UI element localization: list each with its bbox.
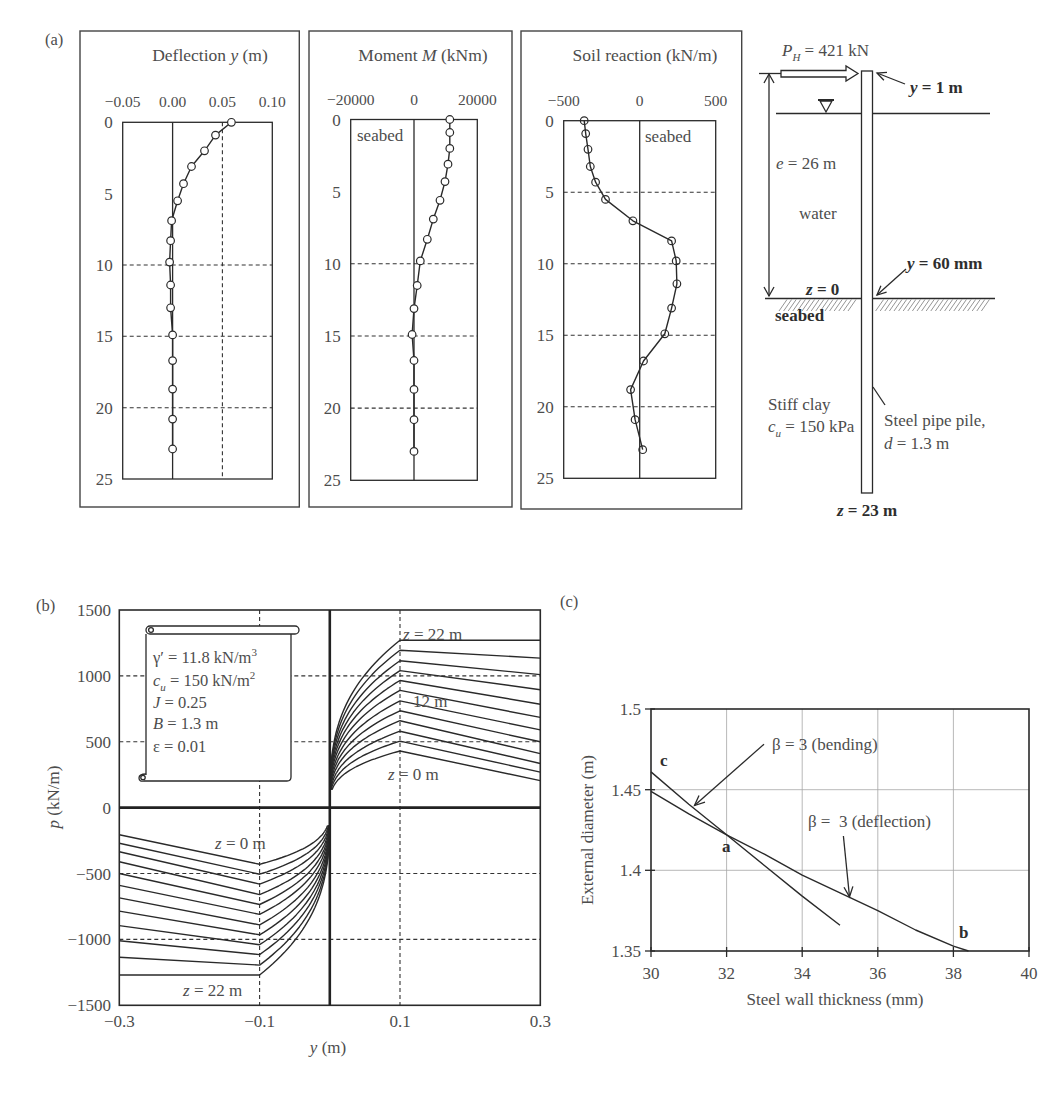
- y-tick-label: 0: [545, 112, 554, 131]
- data-point-marker: [424, 236, 432, 244]
- mudline-deflection-value: = 60 mm: [915, 254, 983, 273]
- y-tick-label: 20: [96, 399, 113, 418]
- py-y-axis-label: p (kN/m): [44, 766, 63, 830]
- data-point-marker: [169, 331, 177, 339]
- y-tick-label: 25: [96, 470, 113, 489]
- legend-value: = 0.01: [160, 737, 206, 756]
- seabed-annotation: seabed: [357, 126, 404, 145]
- y-tick-label: 1.4: [620, 861, 642, 880]
- axis-symbol: y: [308, 1038, 318, 1057]
- data-point-marker: [167, 237, 175, 245]
- y-tick-label: 0: [104, 113, 113, 132]
- legend-superscript: 2: [250, 669, 256, 681]
- legend-pile-width: B = 1.3 m: [153, 714, 218, 733]
- data-point-marker: [444, 160, 452, 168]
- data-point-marker: [441, 178, 449, 186]
- data-point-marker: [446, 145, 454, 153]
- panel-label-a: (a): [45, 30, 63, 49]
- background: [0, 0, 1060, 1094]
- pile-tip-depth-label: z = 23 m: [836, 501, 897, 520]
- curve-label-z22-negative: z = 22 m: [182, 981, 242, 1000]
- legend-symbol: ε: [153, 737, 160, 756]
- free-length-value: = 26 m: [784, 154, 837, 173]
- mudline-depth-label: z = 0: [805, 280, 839, 299]
- data-point-marker: [169, 385, 177, 393]
- axis-unit: (m): [317, 1038, 346, 1057]
- data-point-marker: [201, 147, 209, 155]
- data-point-marker: [169, 357, 177, 365]
- legend-undrained-strength: cu = 150 kN/m2: [153, 669, 255, 693]
- point-label-c: c: [660, 751, 668, 770]
- y-tick-label: 5: [332, 183, 341, 202]
- x-tick-label: 0: [410, 91, 418, 108]
- pile-diameter-value: = 1.3 m: [893, 434, 950, 453]
- design-y-axis-label: External diameter (m): [578, 755, 597, 905]
- load-value: = 421 kN: [800, 41, 869, 60]
- x-tick-label: −0.1: [244, 1012, 275, 1031]
- x-tick-label: 32: [718, 964, 735, 983]
- data-point-marker: [180, 180, 188, 188]
- legend-value: = 0.25: [160, 693, 206, 712]
- y-tick-label: 1500: [77, 601, 111, 620]
- x-tick-label: 0.3: [530, 1012, 551, 1031]
- y-tick-label: 15: [537, 326, 554, 345]
- y-tick-label: 0: [103, 799, 112, 818]
- tip-depth-value: = 23 m: [844, 501, 898, 520]
- x-tick-label: −500: [548, 92, 580, 109]
- soil-strength-value: = 150 kPa: [781, 417, 855, 436]
- label-value: = 22 m: [410, 625, 463, 644]
- data-point-marker: [167, 304, 175, 312]
- x-tick-label: 38: [945, 964, 962, 983]
- title-unit: (kNm): [437, 45, 488, 65]
- legend-superscript: 3: [251, 646, 257, 658]
- x-tick-label: 500: [704, 92, 728, 109]
- data-point-marker: [436, 197, 444, 205]
- title-text: Moment: [358, 45, 422, 65]
- callout-label: β = 3 (deflection): [808, 812, 931, 831]
- data-point-marker: [410, 448, 418, 456]
- legend-value: = 1.3 m: [163, 714, 218, 733]
- mudline-deflection-symbol: y: [905, 254, 915, 273]
- label-value: = 22 m: [190, 981, 243, 1000]
- curve-label-z0-negative: z = 0 m: [214, 834, 266, 853]
- load-symbol: P: [781, 41, 792, 60]
- y-tick-label: −1500: [67, 996, 111, 1015]
- pile-type-label: Steel pipe pile,: [884, 411, 986, 430]
- x-tick-label: 40: [1021, 964, 1038, 983]
- x-tick-label: 0: [636, 92, 644, 109]
- data-point-marker: [430, 215, 438, 223]
- moment-title: Moment M (kNm): [358, 45, 487, 65]
- data-point-marker: [167, 281, 175, 289]
- x-tick-label: 20000: [458, 91, 497, 108]
- free-length-label: e = 26 m: [776, 154, 836, 173]
- y-tick-label: 10: [96, 256, 113, 275]
- axis-unit: (kN/m): [44, 766, 63, 820]
- y-tick-label: 500: [86, 733, 112, 752]
- x-tick-label: 0.05: [209, 93, 236, 110]
- y-tick-label: 5: [545, 183, 554, 202]
- x-tick-label: 0.1: [389, 1012, 410, 1031]
- mudline-deflection-label: y = 60 mm: [905, 254, 982, 273]
- y-tick-label: −500: [76, 865, 111, 884]
- panel-label-b: (b): [36, 596, 55, 615]
- x-tick-label: 0.00: [159, 93, 186, 110]
- title-symbol: M: [421, 45, 438, 65]
- curve-label-z12: 12 m: [413, 692, 447, 711]
- point-label-a: a: [722, 837, 731, 856]
- data-point-marker: [169, 445, 177, 453]
- py-x-axis-label: y (m): [308, 1038, 346, 1057]
- legend-unit-weight: γ′ = 11.8 kN/m3: [152, 646, 257, 667]
- y-tick-label: 15: [324, 327, 341, 346]
- py-legend-box: γ′ = 11.8 kN/m3 cu = 150 kN/m2 J = 0.25 …: [139, 626, 299, 781]
- title-text: Deflection: [152, 45, 230, 65]
- x-tick-label: 30: [643, 964, 660, 983]
- axis-symbol: p: [44, 820, 63, 830]
- y-tick-label: 25: [537, 469, 554, 488]
- x-tick-label: −20000: [327, 91, 375, 108]
- y-tick-label: 15: [96, 327, 113, 346]
- y-tick-label: 1.45: [611, 781, 641, 800]
- soil-strength-label: cu = 150 kPa: [768, 417, 855, 439]
- y-tick-label: 20: [537, 398, 554, 417]
- callout-label: β = 3 (bending): [772, 735, 878, 754]
- y-tick-label: 5: [104, 185, 113, 204]
